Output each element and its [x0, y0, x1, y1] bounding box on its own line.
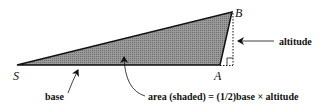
base-arrow — [68, 70, 78, 93]
vertex-label-a: A — [213, 69, 222, 83]
altitude-label: altitude — [279, 36, 312, 47]
triangle-area-diagram: S A B altitude base area (shaded) = (1/2… — [0, 0, 325, 112]
base-label: base — [45, 91, 64, 102]
vertex-label-s: S — [13, 69, 19, 83]
area-label: area (shaded) = (1/2)base × altitude — [148, 91, 299, 103]
shaded-triangle — [17, 12, 232, 65]
right-angle-marker — [227, 58, 233, 65]
vertex-label-b: B — [235, 6, 243, 20]
